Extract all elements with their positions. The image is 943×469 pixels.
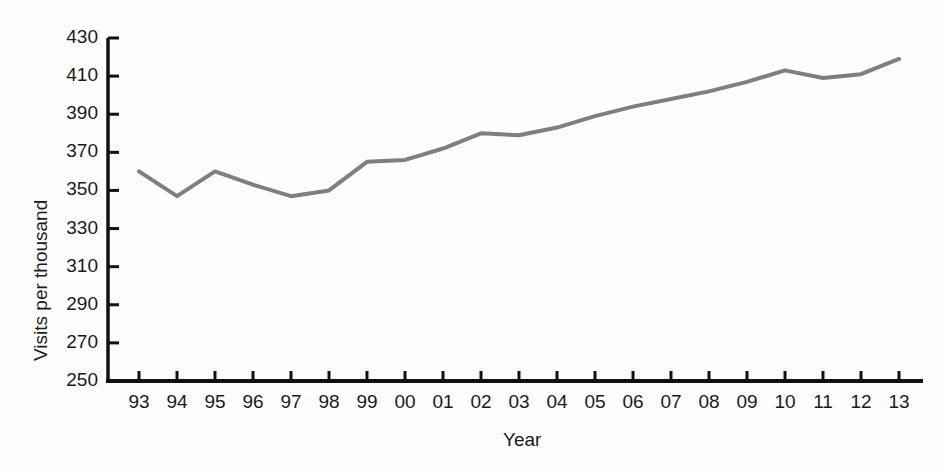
y-axis-tick-label: 310 — [50, 255, 98, 277]
y-axis-tick-label: 250 — [50, 369, 98, 391]
x-axis-tick-label: 03 — [499, 391, 539, 413]
x-axis-tick-label: 08 — [689, 391, 729, 413]
x-axis-tick-label: 96 — [233, 391, 273, 413]
x-axis-tick-label: 99 — [347, 391, 387, 413]
y-axis-tick-label: 350 — [50, 178, 98, 200]
x-axis-tick-label: 95 — [195, 391, 235, 413]
x-axis-tick-label: 11 — [803, 391, 843, 413]
y-axis-tick-label: 290 — [50, 293, 98, 315]
x-axis-tick-label: 00 — [385, 391, 425, 413]
x-axis-tick-label: 13 — [879, 391, 919, 413]
y-axis-tick-label: 370 — [50, 140, 98, 162]
x-axis-tick-label: 93 — [119, 391, 159, 413]
x-axis-tick-label: 05 — [575, 391, 615, 413]
x-axis-tick-label: 98 — [309, 391, 349, 413]
line-chart: Visits per thousand Year 250270290310330… — [0, 0, 943, 469]
y-axis-tick-label: 410 — [50, 64, 98, 86]
x-axis-tick-label: 10 — [765, 391, 805, 413]
y-axis-tick-label: 330 — [50, 217, 98, 239]
x-axis-tick-label: 01 — [423, 391, 463, 413]
y-axis-tick-label: 430 — [50, 26, 98, 48]
x-axis-tick-label: 12 — [841, 391, 881, 413]
x-axis-tick-label: 09 — [727, 391, 767, 413]
x-axis-tick-label: 04 — [537, 391, 577, 413]
y-axis-tick-label: 270 — [50, 331, 98, 353]
x-axis-tick-label: 02 — [461, 391, 501, 413]
x-axis-tick-label: 94 — [157, 391, 197, 413]
y-axis-title: Visits per thousand — [30, 200, 52, 361]
y-axis-tick-label: 390 — [50, 102, 98, 124]
x-axis-tick-label: 97 — [271, 391, 311, 413]
x-axis-tick-label: 07 — [651, 391, 691, 413]
x-axis-title: Year — [503, 429, 541, 451]
x-axis-tick-label: 06 — [613, 391, 653, 413]
data-series-line — [139, 59, 899, 196]
